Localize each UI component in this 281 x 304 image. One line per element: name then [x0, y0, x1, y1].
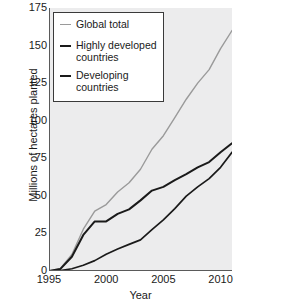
chart-legend: Global total Highly developed countries …	[53, 12, 164, 102]
y-tick-label: 125	[17, 77, 47, 88]
legend-label: Global total	[76, 19, 129, 31]
legend-item: Highly developed countries	[59, 40, 157, 63]
legend-label: Developing countries	[76, 70, 129, 93]
x-axis-title: Year	[49, 289, 232, 301]
legend-label: Highly developed countries	[76, 40, 157, 63]
y-tick-label: 175	[17, 2, 47, 13]
chart-figure: Millions of hectares planted 02550751001…	[0, 0, 281, 304]
x-tick-label: 1995	[29, 274, 69, 285]
x-tick-label: 2010	[201, 274, 241, 285]
legend-line-icon	[59, 40, 72, 51]
y-tick-label: 50	[17, 190, 47, 201]
legend-item: Developing countries	[59, 70, 129, 93]
x-tick-label: 2000	[86, 274, 126, 285]
y-tick-label: 150	[17, 40, 47, 51]
legend-line-icon	[59, 19, 72, 30]
y-tick-label: 100	[17, 115, 47, 126]
x-tick-label: 2005	[143, 274, 183, 285]
legend-line-icon	[59, 70, 72, 81]
y-tick-label: 25	[17, 227, 47, 238]
series-line-highly-developed-countries	[49, 143, 232, 271]
y-axis-title: Millions of hectares planted	[27, 30, 39, 240]
y-tick-label: 75	[17, 152, 47, 163]
legend-item: Global total	[59, 19, 129, 31]
